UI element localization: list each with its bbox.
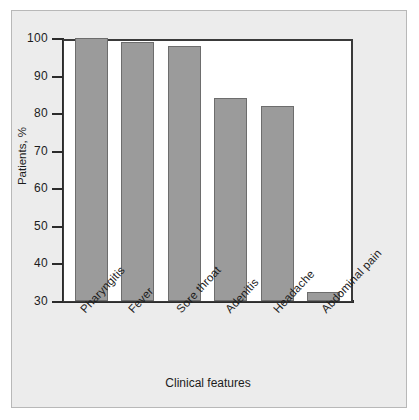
y-axis-tick-label: 60: [8, 181, 48, 195]
y-axis-tick-label: 50: [8, 219, 48, 233]
bar: [168, 46, 201, 301]
y-axis-tick: [52, 226, 62, 228]
x-axis-title: Clinical features: [63, 376, 353, 390]
plot-area: [63, 39, 353, 302]
bar-slot: [301, 41, 348, 301]
y-axis-tick: [52, 263, 62, 265]
bar-slot: [68, 41, 115, 301]
y-axis-tick: [52, 188, 62, 190]
y-axis-tick-label: 90: [8, 69, 48, 83]
y-axis-tick: [52, 113, 62, 115]
y-axis-tick: [52, 38, 62, 40]
bar-slot: [208, 41, 255, 301]
figure-bar-chart: Patients, % 30405060708090100 Pharyngiti…: [0, 0, 419, 420]
bar-slot: [115, 41, 162, 301]
y-axis-tick: [52, 301, 62, 303]
y-axis-tick-label: 30: [8, 294, 48, 308]
bar: [121, 42, 154, 301]
plot-inner: [64, 41, 351, 301]
y-axis-tick-label: 70: [8, 144, 48, 158]
y-axis-tick-label: 40: [8, 256, 48, 270]
bar: [261, 106, 294, 301]
x-axis-tick-labels: PharyngitisFeverSore throatAdenitisHeada…: [63, 303, 353, 373]
y-axis-tick: [52, 151, 62, 153]
bar-series: [64, 41, 351, 301]
bar-slot: [161, 41, 208, 301]
bar-slot: [254, 41, 301, 301]
y-axis-tick-label: 100: [8, 31, 48, 45]
y-axis-tick-label: 80: [8, 106, 48, 120]
y-axis-tick: [52, 76, 62, 78]
bar: [75, 38, 108, 301]
